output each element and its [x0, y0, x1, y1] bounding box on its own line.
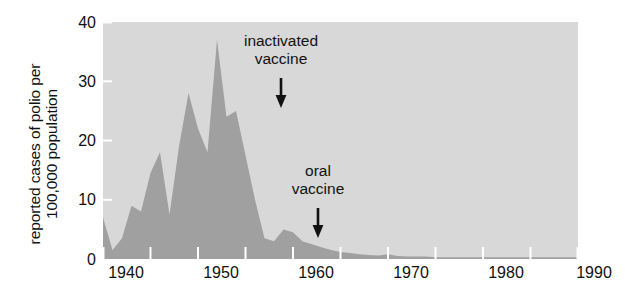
y-axis-title-line-1: reported cases of polio per	[26, 64, 43, 245]
plot-area: inactivated vaccine oral vaccine	[103, 22, 578, 259]
annotation-inactivated-vaccine-line-2: vaccine	[221, 50, 341, 68]
x-tick-label-1980: 1980	[476, 265, 536, 281]
polio-area-series	[103, 40, 578, 259]
x-tick-label-1970: 1970	[381, 265, 441, 281]
y-tick-label-10: 10	[50, 192, 96, 208]
annotation-inactivated-vaccine-label: inactivated vaccine	[221, 32, 341, 67]
annotation-inactivated-vaccine-line-1: inactivated	[221, 32, 341, 50]
y-axis-tick-marks	[103, 23, 112, 200]
x-tick-label-1990: 1990	[564, 265, 624, 281]
x-tick-label-1940: 1940	[96, 265, 156, 281]
x-axis-tick-labels: 1940 1950 1960 1970 1980 1990	[0, 265, 625, 291]
annotation-oral-vaccine-line-2: vaccine	[263, 180, 373, 198]
y-tick-label-40: 40	[50, 15, 96, 31]
y-tick-label-20: 20	[50, 133, 96, 149]
annotation-oral-vaccine-arrow-down-icon	[310, 208, 326, 238]
polio-incidence-chart: reported cases of polio per 100,000 popu…	[0, 0, 625, 305]
annotation-oral-vaccine-label: oral vaccine	[263, 162, 373, 197]
y-axis-tick-labels: 40 30 20 10 0	[50, 0, 96, 305]
x-tick-label-1950: 1950	[191, 265, 251, 281]
y-tick-label-30: 30	[50, 74, 96, 90]
annotation-inactivated-vaccine-arrow-down-icon	[273, 78, 289, 108]
x-tick-label-1960: 1960	[286, 265, 346, 281]
annotation-oral-vaccine-line-1: oral	[263, 162, 373, 180]
